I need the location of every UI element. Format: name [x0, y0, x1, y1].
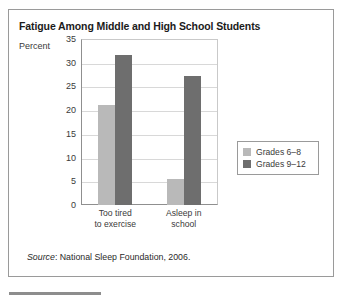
y-tick-label: 25 — [66, 81, 76, 91]
legend-swatch-icon — [243, 160, 251, 168]
figure-frame: Fatigue Among Middle and High School Stu… — [8, 9, 334, 277]
y-tick-label: 15 — [66, 129, 76, 139]
bars-layer — [81, 39, 218, 205]
legend-label: Grades 6–8 — [256, 147, 301, 157]
x-category-label-line: Asleep in — [166, 208, 201, 219]
x-category-label: Asleep inschool — [166, 208, 201, 229]
y-tick-label: 35 — [66, 34, 76, 44]
bar — [167, 179, 184, 205]
bottom-rule — [9, 292, 101, 295]
x-category-label: Too tiredto exercise — [94, 208, 136, 229]
y-tick-label: 5 — [71, 176, 76, 186]
y-tick-label: 20 — [66, 105, 76, 115]
source-note: Source: National Sleep Foundation, 2006. — [27, 252, 190, 262]
y-axis-tick-labels: 05101520253035 — [49, 39, 79, 205]
legend-label: Grades 9–12 — [256, 159, 306, 169]
legend-item: Grades 9–12 — [243, 158, 313, 170]
bar — [184, 76, 201, 205]
chart-title: Fatigue Among Middle and High School Stu… — [19, 20, 260, 32]
source-label: Source — [27, 252, 55, 262]
y-tick-label: 0 — [71, 200, 76, 210]
bar — [98, 105, 115, 205]
y-tick-label: 10 — [66, 153, 76, 163]
x-category-label-line: school — [166, 219, 201, 230]
bar — [115, 55, 132, 205]
legend-item: Grades 6–8 — [243, 146, 313, 158]
legend-swatch-icon — [243, 148, 251, 156]
x-axis-category-labels: Too tiredto exerciseAsleep inschool — [81, 208, 218, 238]
chart-legend: Grades 6–8Grades 9–12 — [237, 141, 319, 175]
x-category-label-line: to exercise — [94, 219, 136, 230]
source-text: National Sleep Foundation, 2006. — [60, 252, 191, 262]
x-category-label-line: Too tired — [94, 208, 136, 219]
y-axis-caption: Percent — [19, 41, 50, 51]
y-tick-label: 30 — [66, 58, 76, 68]
